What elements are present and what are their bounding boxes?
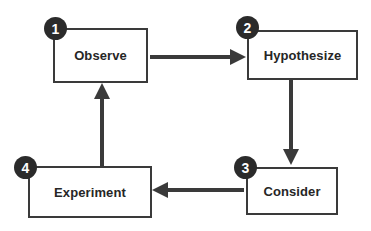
arrow-observe-to-hypothesize [150,49,246,65]
node-observe-label: Observe [74,49,127,62]
step-number-badge-4: 4 [14,156,37,179]
node-observe[interactable]: Observe [53,28,148,83]
step-number-badge-3: 3 [234,156,257,179]
arrow-consider-to-experiment [152,182,244,198]
arrow-hypothesize-to-consider [283,80,299,165]
node-experiment-label: Experiment [54,186,126,199]
arrow-experiment-to-observe [94,83,110,166]
node-hypothesize[interactable]: Hypothesize [247,30,358,80]
diagram-canvas: Observe Hypothesize Consider Experiment … [0,0,371,231]
node-hypothesize-label: Hypothesize [264,49,342,62]
step-number-badge-2: 2 [236,16,259,39]
step-number-badge-1: 1 [44,17,67,40]
node-experiment[interactable]: Experiment [28,166,152,218]
node-consider[interactable]: Consider [246,167,338,215]
node-consider-label: Consider [263,185,320,198]
